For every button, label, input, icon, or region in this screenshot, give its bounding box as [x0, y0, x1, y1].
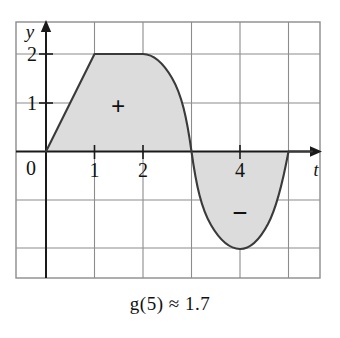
figure-caption: g(5) ≈ 1.7: [0, 293, 340, 315]
x-tick-label-1: 1: [90, 159, 100, 181]
integral-area-figure: y t 2 1 0 1 2 4 + −: [0, 0, 340, 338]
y-tick-label-2: 2: [27, 43, 37, 65]
positive-region-marker: +: [111, 93, 125, 120]
y-axis-label: y: [24, 21, 35, 42]
x-tick-label-4: 4: [235, 159, 245, 181]
x-tick-label-2: 2: [138, 159, 148, 181]
y-tick-label-1: 1: [27, 92, 37, 114]
origin-label: 0: [26, 157, 36, 179]
negative-region-marker: −: [232, 198, 247, 228]
